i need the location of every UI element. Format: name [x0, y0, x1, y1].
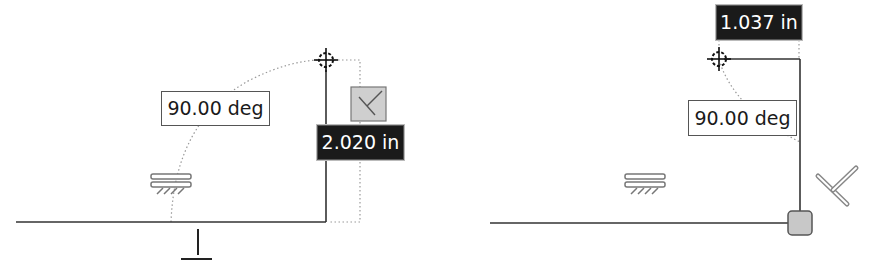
cursor-target-icon: [707, 47, 731, 71]
length-dimension-left[interactable]: 2.020 in: [317, 125, 404, 160]
perpendicular-constraint-icon: [818, 168, 856, 204]
length-value: 1.037 in: [720, 13, 798, 32]
perpendicular-constraint-icon: [351, 87, 386, 121]
angle-value: 90.00 deg: [167, 99, 263, 118]
angle-dimension-right[interactable]: 90.00 deg: [688, 100, 797, 136]
angle-value: 90.00 deg: [694, 109, 790, 128]
angle-arc-left: [171, 60, 322, 222]
sketch-canvas[interactable]: 90.00 deg 2.020 in 1.037 in 90.00 deg: [0, 0, 870, 271]
length-dimension-right[interactable]: 1.037 in: [716, 5, 802, 40]
ground-icon: [181, 229, 212, 259]
horizontal-constraint-icon: [151, 174, 191, 194]
length-value: 2.020 in: [322, 133, 400, 152]
cursor-target-icon: [314, 48, 338, 72]
angle-dimension-left[interactable]: 90.00 deg: [161, 91, 270, 126]
horizontal-constraint-icon: [625, 174, 665, 194]
endpoint-handle-icon: [788, 211, 812, 235]
